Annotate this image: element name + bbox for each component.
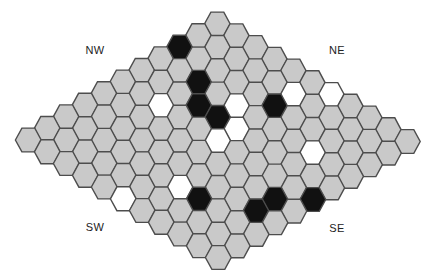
label-nw: NW: [86, 44, 105, 56]
label-ne: NE: [329, 44, 345, 56]
label-sw: SW: [86, 221, 104, 233]
hex-cell[interactable]: [205, 246, 231, 270]
hex-board: [0, 0, 431, 279]
label-se: SE: [329, 222, 344, 234]
